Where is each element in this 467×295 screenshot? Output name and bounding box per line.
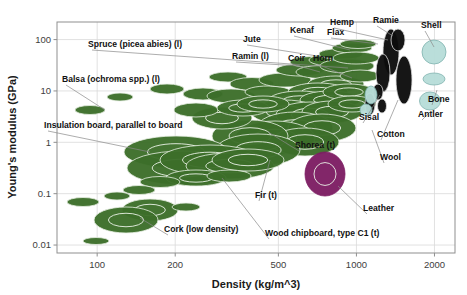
bubble-chart: 10020050010002000 0.010.1110100 Spruce (…	[0, 0, 467, 295]
x-tick-label: 500	[270, 259, 286, 270]
bubble-natural-materials-shell-bone	[365, 86, 377, 104]
bubble-wood-and-natural-fibre-composites	[67, 198, 99, 207]
bubble-wood-and-natural-fibre-composites	[340, 70, 380, 82]
annotation-label: Wood chipboard, type C1 (t)	[265, 228, 380, 238]
y-tick-label: 100	[35, 34, 51, 45]
x-tick-label: 200	[167, 259, 183, 270]
bubble-wood-and-natural-fibre-composites	[104, 192, 130, 200]
bubble-wood-and-natural-fibre-composites	[212, 149, 284, 171]
bubble-wood-and-natural-fibre-composites	[172, 203, 200, 211]
annotation-label: Spruce (picea abies) (l)	[88, 39, 182, 49]
chart-root: 10020050010002000 0.010.1110100 Spruce (…	[0, 0, 467, 295]
annotation-label: Sisal	[359, 112, 379, 122]
y-tick-label: 1	[46, 137, 51, 148]
annotation-label: Coir	[288, 53, 306, 63]
x-tick-label: 1000	[346, 259, 367, 270]
annotation-label: Bone	[428, 94, 450, 104]
bubble-wood-and-natural-fibre-composites	[123, 186, 155, 195]
bubble-wood-and-natural-fibre-composites	[340, 40, 376, 49]
bubble-wood-and-natural-fibre-composites	[83, 238, 109, 245]
bubble-wood-and-natural-fibre-composites	[174, 103, 218, 117]
bubble-wood-and-natural-fibre-composites	[207, 170, 251, 182]
annotation-label: Cork (low density)	[164, 224, 239, 234]
bubble-leather	[305, 152, 345, 196]
annotation-label: Fir (t)	[255, 190, 277, 200]
annotation-label: Leather	[363, 203, 395, 213]
bubble-wood-and-natural-fibre-composites	[333, 52, 379, 64]
annotation-label: Antler	[418, 109, 443, 119]
annotation-label: Jute	[243, 34, 261, 44]
annotation-label: Insulation board, parallel to board	[44, 120, 182, 130]
annotation-label: Cotton	[377, 129, 405, 139]
bubble-natural-materials-shell-bone	[422, 40, 446, 64]
annotation-label: Shorea (t)	[295, 140, 335, 150]
annotation-label: Balsa (ochroma spp.) (l)	[62, 74, 160, 84]
x-tick-label: 2000	[424, 259, 445, 270]
x-axis-title: Density (kg/m^3)	[212, 278, 301, 290]
bubble-wood-and-natural-fibre-composites	[107, 93, 133, 101]
annotation-label: Ramie	[373, 15, 399, 25]
annotation-label: Hemp	[330, 17, 354, 27]
y-axis-title: Young's modulus (GPa)	[6, 75, 18, 199]
x-tick-label: 100	[89, 259, 105, 270]
annotation-label: Shell	[421, 20, 442, 30]
y-tick-label: 10	[40, 85, 51, 96]
annotation-label: Horn	[313, 53, 333, 63]
bubble-wood-and-natural-fibre-composites	[94, 207, 158, 233]
annotation-label: Wool	[380, 152, 401, 162]
y-tick-label: 0.1	[38, 188, 51, 199]
bubble-wood-and-natural-fibre-composites	[150, 84, 184, 94]
bubble-natural-materials-shell-bone	[423, 73, 445, 85]
bubble-wood-and-natural-fibre-composites	[237, 96, 289, 112]
annotation-label: Kenaf	[290, 25, 314, 35]
bubble-natural-fibres	[391, 29, 405, 51]
bubble-natural-fibres	[396, 56, 412, 104]
annotation-label: Ramin (l)	[232, 51, 269, 61]
y-tick-label: 0.01	[33, 239, 52, 250]
bubble-natural-fibres	[378, 99, 387, 113]
